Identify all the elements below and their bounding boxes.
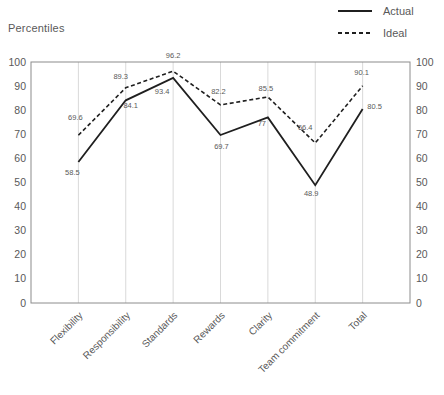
svg-text:48.9: 48.9: [304, 189, 319, 198]
svg-text:30: 30: [416, 224, 428, 236]
svg-text:90.1: 90.1: [354, 68, 369, 77]
svg-text:69.6: 69.6: [68, 113, 83, 122]
svg-text:82.2: 82.2: [211, 87, 226, 96]
svg-text:77: 77: [258, 119, 266, 128]
legend-label-actual: Actual: [383, 5, 414, 17]
legend-item-ideal: Ideal: [338, 22, 414, 44]
svg-text:50: 50: [416, 176, 428, 188]
y-axis-left: 0102030405060708090100: [8, 56, 26, 309]
svg-text:20: 20: [14, 248, 26, 260]
svg-text:70: 70: [416, 128, 428, 140]
svg-text:30: 30: [14, 224, 26, 236]
y-axis-title: Percentiles: [8, 22, 65, 34]
x-axis-labels: FlexibilityResponsibilityStandardsReward…: [48, 309, 369, 375]
gridlines: [78, 62, 362, 303]
plot-svg: 0102030405060708090100010203040506070809…: [0, 0, 444, 395]
data-labels-ideal: 69.689.396.282.285.566.490.1: [68, 51, 369, 133]
svg-text:60: 60: [14, 152, 26, 164]
svg-text:Total: Total: [346, 310, 369, 333]
svg-text:100: 100: [416, 56, 434, 68]
svg-text:Responsibility: Responsibility: [81, 310, 132, 361]
svg-text:70: 70: [14, 128, 26, 140]
svg-text:100: 100: [8, 56, 26, 68]
svg-text:93.4: 93.4: [155, 87, 170, 96]
svg-text:85.5: 85.5: [259, 84, 274, 93]
svg-text:60: 60: [416, 152, 428, 164]
svg-text:Rewards: Rewards: [191, 310, 227, 346]
svg-text:10: 10: [14, 272, 26, 284]
svg-text:20: 20: [416, 248, 428, 260]
svg-text:40: 40: [14, 200, 26, 212]
svg-text:89.3: 89.3: [113, 72, 128, 81]
legend-item-actual: Actual: [338, 0, 414, 22]
y-axis-right: 0102030405060708090100: [416, 56, 434, 309]
svg-text:Clarity: Clarity: [246, 310, 274, 338]
actual-line-sample: [338, 10, 372, 12]
svg-text:Standards: Standards: [140, 310, 180, 350]
svg-text:0: 0: [20, 297, 26, 309]
svg-text:80: 80: [14, 104, 26, 116]
legend-label-ideal: Ideal: [383, 27, 407, 39]
svg-text:96.2: 96.2: [166, 51, 181, 60]
svg-text:90: 90: [416, 80, 428, 92]
svg-text:0: 0: [416, 297, 422, 309]
svg-text:66.4: 66.4: [298, 123, 313, 132]
svg-text:80.5: 80.5: [367, 102, 382, 111]
percentiles-chart: Percentiles Actual Ideal 010203040506070…: [0, 0, 444, 395]
svg-text:40: 40: [416, 200, 428, 212]
svg-text:50: 50: [14, 176, 26, 188]
legend: Actual Ideal: [338, 0, 414, 44]
svg-text:80: 80: [416, 104, 428, 116]
svg-text:Flexibility: Flexibility: [48, 310, 85, 347]
svg-text:90: 90: [14, 80, 26, 92]
svg-text:58.5: 58.5: [65, 168, 80, 177]
svg-text:69.7: 69.7: [214, 142, 229, 151]
svg-text:10: 10: [416, 272, 428, 284]
ideal-line-sample: [338, 32, 372, 34]
svg-text:84.1: 84.1: [123, 101, 138, 110]
